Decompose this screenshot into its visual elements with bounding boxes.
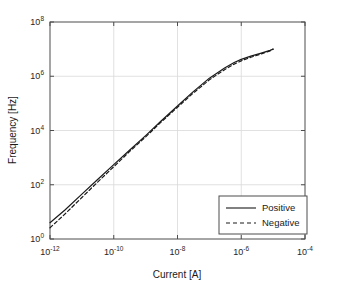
legend-label-negative: Negative	[262, 217, 300, 228]
log-log-plot: 10-1210-1010-810-610-4 100102104106108 C…	[0, 0, 340, 294]
legend[interactable]: Positive Negative	[219, 196, 307, 234]
y-axis-title: Frequency [Hz]	[7, 96, 18, 164]
figure-canvas: 10-1210-1010-810-610-4 100102104106108 C…	[0, 0, 340, 294]
x-axis-title: Current [A]	[153, 269, 202, 280]
legend-label-positive: Positive	[262, 202, 295, 213]
